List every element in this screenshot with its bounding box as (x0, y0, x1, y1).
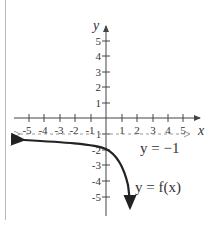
function-curve (24, 140, 130, 208)
y-tick-labels: 5 4 3 2 1 1 -2 -3 -4 -5 (92, 35, 102, 203)
svg-text:-4: -4 (92, 175, 102, 187)
asymptote-label: y = −1 (140, 140, 179, 156)
function-graph: x -5 -4 -3 -2 -1 1 2 3 4 5 (0, 0, 213, 225)
y-axis: y 5 4 3 2 1 1 -2 -3 -4 -5 (91, 18, 110, 216)
svg-text:3: 3 (96, 66, 102, 78)
x-axis-label: x (197, 123, 205, 138)
function-label: y = f(x) (135, 179, 181, 196)
svg-text:1: 1 (96, 97, 102, 109)
svg-text:5: 5 (96, 35, 102, 47)
svg-text:-3: -3 (92, 159, 102, 171)
chart-frame: x -5 -4 -3 -2 -1 1 2 3 4 5 (0, 0, 213, 225)
svg-text:-5: -5 (92, 191, 102, 203)
y-axis-label: y (91, 18, 100, 33)
svg-text:4: 4 (96, 50, 102, 62)
svg-text:2: 2 (96, 81, 102, 93)
